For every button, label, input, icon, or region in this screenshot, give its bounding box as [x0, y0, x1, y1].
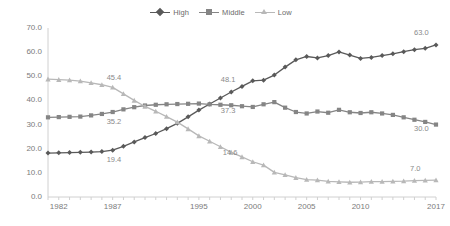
- data-point-marker: [358, 111, 362, 115]
- data-point-marker: [380, 111, 384, 115]
- data-point-marker: [164, 102, 168, 106]
- data-point-marker: [132, 139, 137, 144]
- data-point-marker: [99, 149, 104, 154]
- data-point-marker: [240, 104, 244, 108]
- data-point-marker: [412, 47, 417, 52]
- data-point-marker: [423, 46, 428, 51]
- data-point-marker: [121, 107, 125, 111]
- data-label-high-2000: 48.1: [221, 75, 236, 84]
- data-point-marker: [305, 111, 309, 115]
- data-point-marker: [240, 84, 245, 89]
- data-point-marker: [110, 148, 115, 153]
- data-point-marker: [304, 54, 309, 59]
- series-layer: [45, 42, 438, 184]
- data-label-low-1987: 45.4: [107, 73, 122, 82]
- data-point-marker: [315, 55, 320, 60]
- x-tick-label: 2010: [341, 202, 381, 211]
- data-point-marker: [390, 51, 395, 56]
- y-tick-label: 70.0: [8, 23, 42, 32]
- x-tick-label: 1995: [179, 202, 219, 211]
- data-point-marker: [89, 113, 93, 117]
- data-point-marker: [391, 113, 395, 117]
- data-point-marker: [348, 110, 352, 114]
- data-point-marker: [261, 78, 266, 83]
- data-point-marker: [434, 42, 439, 47]
- data-point-marker: [283, 106, 287, 110]
- data-point-marker: [143, 135, 148, 140]
- data-point-marker: [434, 122, 438, 126]
- data-point-marker: [78, 150, 83, 155]
- y-tick-label: 20.0: [8, 144, 42, 153]
- data-point-marker: [67, 150, 72, 155]
- data-label-middle-2017: 30.0: [414, 124, 429, 133]
- chart-axes: [48, 28, 436, 200]
- data-point-marker: [100, 112, 104, 116]
- data-point-marker: [380, 53, 385, 58]
- data-point-marker: [251, 105, 255, 109]
- y-tick-label: 10.0: [8, 168, 42, 177]
- data-point-marker: [326, 111, 330, 115]
- data-point-marker: [132, 105, 136, 109]
- data-point-marker: [154, 103, 158, 107]
- data-label-high-2017: 63.0: [414, 28, 429, 37]
- x-tick-label: 2005: [287, 202, 327, 211]
- data-point-marker: [153, 131, 158, 136]
- data-label-middle-1987: 35.2: [107, 117, 122, 126]
- data-point-marker: [164, 126, 169, 131]
- data-point-marker: [369, 110, 373, 114]
- x-tick-label: 1987: [93, 202, 133, 211]
- data-point-marker: [89, 150, 94, 155]
- data-point-marker: [250, 78, 255, 83]
- data-point-marker: [78, 115, 82, 119]
- data-point-marker: [337, 49, 342, 54]
- data-point-marker: [315, 109, 319, 113]
- data-point-marker: [121, 91, 126, 96]
- data-point-marker: [358, 56, 363, 61]
- data-point-marker: [197, 101, 201, 105]
- data-point-marker: [261, 102, 265, 106]
- x-tick-label: 2000: [233, 202, 273, 211]
- data-label-high-1987: 19.4: [107, 155, 122, 164]
- series-middle: [46, 100, 438, 127]
- data-point-marker: [67, 115, 71, 119]
- data-point-marker: [401, 49, 406, 54]
- data-point-marker: [208, 102, 212, 106]
- data-label-low-2000: 14.6: [223, 148, 238, 157]
- data-point-marker: [186, 102, 190, 106]
- data-point-marker: [294, 110, 298, 114]
- data-point-marker: [121, 144, 126, 149]
- data-point-marker: [132, 98, 137, 103]
- data-point-marker: [56, 150, 61, 155]
- series-high: [46, 42, 439, 155]
- data-point-marker: [46, 151, 51, 156]
- data-point-marker: [46, 115, 50, 119]
- data-point-marker: [347, 53, 352, 58]
- data-label-middle-2000: 37.3: [221, 106, 236, 115]
- data-label-low-2017: 7.0: [410, 164, 420, 173]
- data-point-marker: [337, 108, 341, 112]
- data-point-marker: [272, 100, 276, 104]
- data-point-marker: [402, 115, 406, 119]
- y-tick-label: 0.0: [8, 192, 42, 201]
- y-tick-label: 50.0: [8, 71, 42, 80]
- data-point-marker: [111, 110, 115, 114]
- series-low: [45, 77, 438, 185]
- x-tick-label: 2017: [416, 202, 450, 211]
- data-point-marker: [175, 102, 179, 106]
- y-tick-label: 30.0: [8, 120, 42, 129]
- data-point-marker: [412, 118, 416, 122]
- data-point-marker: [57, 115, 61, 119]
- data-point-marker: [229, 89, 234, 94]
- x-tick-label: 1982: [39, 202, 79, 211]
- y-tick-label: 40.0: [8, 95, 42, 104]
- data-point-marker: [326, 53, 331, 58]
- y-tick-label: 60.0: [8, 47, 42, 56]
- data-point-marker: [369, 55, 374, 60]
- data-point-marker: [218, 96, 223, 101]
